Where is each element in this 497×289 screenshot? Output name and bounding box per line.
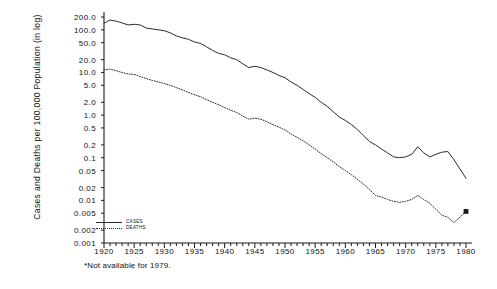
- legend-line-dotted-icon: [96, 228, 122, 229]
- series-line-cases: [104, 20, 466, 178]
- legend-line-solid-icon: [96, 222, 122, 223]
- chart-legend: CASES DEATHS: [96, 219, 146, 231]
- chart-figure: Cases and Deaths per 100,000 Population …: [0, 0, 497, 289]
- chart-footnote: *Not available for 1979.: [84, 261, 171, 270]
- series-line-deaths: [104, 69, 466, 223]
- plot-area: [0, 0, 497, 289]
- data-point-marker: [464, 209, 469, 214]
- legend-item-deaths: DEATHS: [96, 225, 146, 231]
- legend-label-deaths: DEATHS: [126, 225, 146, 232]
